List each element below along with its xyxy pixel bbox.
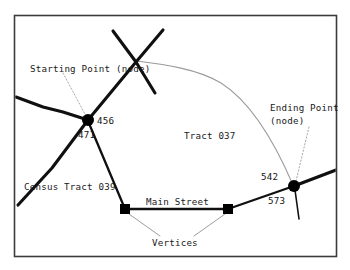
ending-point-node[interactable] — [288, 180, 300, 192]
node-number-573: 573 — [268, 195, 285, 206]
tract-037-label: Tract 037 — [184, 130, 236, 141]
leader-ending-point — [296, 127, 309, 181]
census-map-diagram: Starting Point (node) Ending Point (node… — [0, 0, 350, 270]
vertices-label: Vertices — [152, 237, 198, 248]
vertex-left[interactable] — [120, 204, 130, 214]
leader-vertex-right — [194, 214, 225, 236]
street-northeast-of-end-node — [294, 170, 336, 186]
main-street-label: Main Street — [146, 196, 209, 207]
leader-vertex-left — [129, 214, 160, 236]
starting-point-label: Starting Point (node) — [30, 63, 150, 74]
ending-point-label-line2: (node) — [270, 115, 304, 126]
vertex-right[interactable] — [223, 204, 233, 214]
node-number-471: 471 — [78, 129, 95, 140]
node-number-542: 542 — [261, 171, 278, 182]
street-diagonal-upper-right — [88, 30, 163, 120]
street-stub-south-of-end-node — [295, 190, 299, 219]
census-tract-039-label: Census Tract 039 — [24, 181, 116, 192]
leader-starting-point — [63, 73, 86, 116]
node-number-456: 456 — [97, 115, 114, 126]
map-frame — [15, 16, 337, 257]
starting-point-node[interactable] — [82, 114, 94, 126]
ending-point-label-line1: Ending Point — [270, 102, 339, 113]
